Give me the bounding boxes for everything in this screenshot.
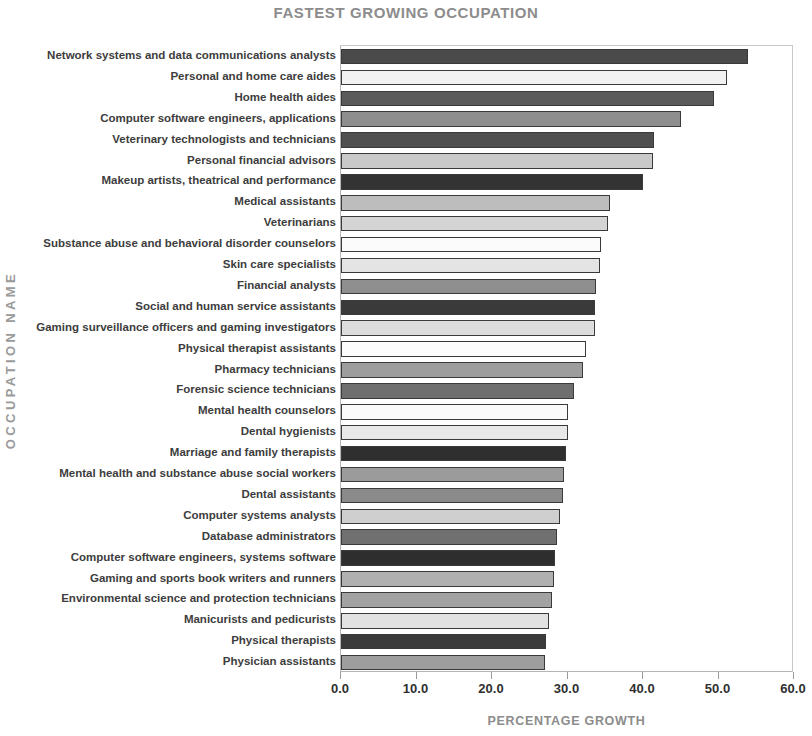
category-label: Environmental science and protection tec… bbox=[61, 588, 336, 610]
category-label: Personal financial advisors bbox=[187, 150, 336, 172]
category-label: Network systems and data communications … bbox=[47, 45, 336, 67]
category-label: Computer software engineers, application… bbox=[100, 108, 336, 130]
category-label: Mental health counselors bbox=[198, 400, 336, 422]
bar bbox=[341, 300, 595, 316]
bar-row bbox=[341, 527, 794, 549]
bar bbox=[341, 70, 727, 86]
bar bbox=[341, 195, 610, 211]
bar-row bbox=[341, 443, 794, 465]
category-label: Computer software engineers, systems sof… bbox=[71, 547, 336, 569]
bar bbox=[341, 258, 600, 274]
category-label: Manicurists and pedicurists bbox=[184, 609, 336, 631]
x-tick-mark bbox=[793, 672, 794, 679]
x-tick-label: 50.0 bbox=[705, 681, 730, 696]
bar-row bbox=[341, 548, 794, 570]
bar bbox=[341, 111, 681, 127]
category-label: Forensic science technicians bbox=[176, 379, 336, 401]
plot-area bbox=[340, 45, 793, 672]
bar-row bbox=[341, 213, 794, 235]
bar bbox=[341, 425, 568, 441]
bar-row bbox=[341, 569, 794, 591]
bar-row bbox=[341, 485, 794, 507]
bar-row bbox=[341, 360, 794, 382]
x-tick-label: 10.0 bbox=[403, 681, 428, 696]
bar-row bbox=[341, 422, 794, 444]
bar bbox=[341, 446, 566, 462]
bar-row bbox=[341, 589, 794, 611]
bar bbox=[341, 362, 583, 378]
category-label: Gaming surveillance officers and gaming … bbox=[36, 317, 336, 339]
category-label: Pharmacy technicians bbox=[215, 359, 336, 381]
bar-row bbox=[341, 276, 794, 298]
bar bbox=[341, 467, 564, 483]
x-tick-label: 60.0 bbox=[780, 681, 805, 696]
bar bbox=[341, 404, 568, 420]
bar-row bbox=[341, 610, 794, 632]
bar bbox=[341, 49, 748, 65]
bar bbox=[341, 383, 574, 399]
x-tick-label: 20.0 bbox=[478, 681, 503, 696]
category-label: Skin care specialists bbox=[223, 254, 336, 276]
bar bbox=[341, 174, 643, 190]
bar-row bbox=[341, 464, 794, 486]
x-axis-title: PERCENTAGE GROWTH bbox=[340, 714, 793, 728]
bar-row bbox=[341, 88, 794, 110]
bar-row bbox=[341, 46, 794, 68]
bar bbox=[341, 132, 654, 148]
bar bbox=[341, 509, 560, 525]
bar bbox=[341, 341, 586, 357]
bar-row bbox=[341, 192, 794, 214]
bar-row bbox=[341, 255, 794, 277]
x-tick-label: 30.0 bbox=[554, 681, 579, 696]
category-label: Gaming and sports book writers and runne… bbox=[90, 568, 336, 590]
category-label: Substance abuse and behavioral disorder … bbox=[43, 233, 336, 255]
bar bbox=[341, 592, 552, 608]
bar-row bbox=[341, 380, 794, 402]
bar bbox=[341, 634, 546, 650]
category-label: Veterinarians bbox=[264, 212, 336, 234]
bar-row bbox=[341, 339, 794, 361]
bar bbox=[341, 91, 714, 107]
x-tick-label: 0.0 bbox=[331, 681, 349, 696]
bar-row bbox=[341, 171, 794, 193]
bar bbox=[341, 237, 601, 253]
category-label: Dental assistants bbox=[241, 484, 336, 506]
bar-row bbox=[341, 506, 794, 528]
bar bbox=[341, 550, 555, 566]
category-label: Database administrators bbox=[202, 526, 336, 548]
category-label: Marriage and family therapists bbox=[170, 442, 336, 464]
bar-row bbox=[341, 297, 794, 319]
bar-row bbox=[341, 652, 794, 674]
bar-row bbox=[341, 234, 794, 256]
x-tick-label: 40.0 bbox=[629, 681, 654, 696]
x-tick-mark bbox=[718, 672, 719, 679]
bar bbox=[341, 488, 563, 504]
bar bbox=[341, 216, 608, 232]
x-axis-ticks: 0.010.020.030.040.050.060.0 bbox=[340, 672, 793, 706]
bar-row bbox=[341, 631, 794, 653]
bar-row bbox=[341, 318, 794, 340]
bar bbox=[341, 279, 596, 295]
category-label: Dental hygienists bbox=[241, 421, 336, 443]
x-tick-mark bbox=[491, 672, 492, 679]
category-label: Financial analysts bbox=[237, 275, 336, 297]
chart-title: FASTEST GROWING OCCUPATION bbox=[0, 4, 812, 21]
category-label: Physician assistants bbox=[223, 651, 336, 673]
category-label: Medical assistants bbox=[234, 191, 336, 213]
bar bbox=[341, 153, 653, 169]
category-label: Mental health and substance abuse social… bbox=[59, 463, 336, 485]
bar-row bbox=[341, 67, 794, 89]
category-label: Makeup artists, theatrical and performan… bbox=[101, 170, 336, 192]
bar-row bbox=[341, 109, 794, 131]
bar bbox=[341, 571, 554, 587]
fastest-growing-occupation-chart: FASTEST GROWING OCCUPATION OCCUPATION NA… bbox=[0, 0, 812, 736]
bar-row bbox=[341, 151, 794, 173]
category-label: Physical therapists bbox=[231, 630, 336, 652]
category-label: Home health aides bbox=[234, 87, 336, 109]
bar bbox=[341, 320, 595, 336]
category-label: Veterinary technologists and technicians bbox=[112, 129, 336, 151]
bar bbox=[341, 655, 545, 671]
x-tick-mark bbox=[416, 672, 417, 679]
category-label: Physical therapist assistants bbox=[178, 338, 336, 360]
bar-row bbox=[341, 401, 794, 423]
